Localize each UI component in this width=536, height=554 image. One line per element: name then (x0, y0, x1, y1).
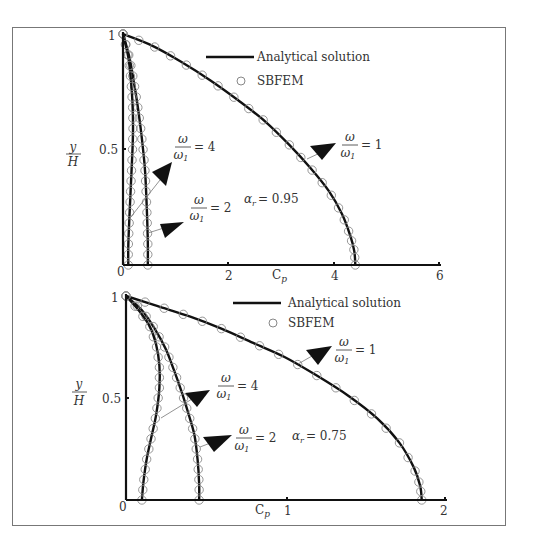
svg-text:ω1: ω1 (341, 146, 356, 161)
y-axis-label-den: H (67, 155, 79, 169)
svg-text:ω1: ω1 (174, 148, 189, 163)
svg-text:= 1: = 1 (361, 138, 383, 152)
svg-text:ω: ω (239, 423, 249, 437)
svg-text:ω1: ω1 (217, 387, 232, 402)
alpha-annotation: αr= 0.75 (292, 429, 347, 445)
y-tick-label: 1 (111, 291, 119, 305)
figure: 0 2 4 6 Cp 0.5 1 y H Analytical solution… (0, 0, 536, 554)
legend-analytical: Analytical solution (287, 296, 401, 310)
svg-text:ω: ω (339, 335, 349, 349)
svg-text:= 2: = 2 (210, 201, 232, 215)
legend-sbfem: SBFEM (288, 316, 334, 330)
label-omega-1: ω ω1 = 1 (298, 335, 377, 366)
svg-text:= 4: = 4 (237, 379, 259, 393)
svg-text:ω1: ω1 (235, 439, 250, 454)
svg-text:ω1: ω1 (190, 209, 205, 224)
y-axis-label-num: y (69, 140, 77, 154)
y-tick-label: 0.5 (99, 143, 118, 157)
legend-marker-circle (237, 77, 245, 85)
arrow-icon (152, 162, 172, 186)
label-omega-2: ω ω1 = 2 (200, 423, 277, 454)
x-tick-label: 4 (331, 269, 339, 283)
svg-text:= 1: = 1 (355, 343, 377, 357)
chart-bottom: 0 1 2 Cp 0.5 1 y H Analytical solution S… (72, 291, 448, 519)
arrow-icon (203, 435, 232, 452)
chart-top: 0 2 4 6 Cp 0.5 1 y H Analytical solution… (66, 29, 444, 284)
label-omega-2: ω ω1 = 2 (148, 193, 232, 238)
y-tick-label: 1 (108, 29, 116, 43)
x-axis-label: Cp (272, 268, 287, 284)
svg-text:= 2: = 2 (255, 431, 277, 445)
x-tick-label: 0 (119, 500, 127, 514)
svg-text:ω: ω (194, 193, 204, 207)
bottom-curves (122, 292, 426, 504)
arrow-icon (160, 222, 184, 238)
x-tick-label: 1 (284, 504, 292, 518)
x-axis-label: Cp (255, 503, 270, 519)
alpha-annotation: αr= 0.95 (244, 192, 299, 208)
x-tick-label: 2 (440, 504, 448, 518)
x-tick-label: 2 (225, 269, 233, 283)
legend-analytical: Analytical solution (256, 50, 370, 64)
svg-text:ω: ω (345, 130, 355, 144)
y-axis-label-num: y (75, 377, 83, 391)
svg-text:ω: ω (178, 132, 188, 146)
svg-text:= 4: = 4 (194, 140, 216, 154)
svg-text:ω: ω (221, 371, 231, 385)
x-tick-label: 6 (436, 269, 444, 283)
legend-sbfem: SBFEM (257, 74, 303, 88)
svg-text:ω1: ω1 (335, 351, 350, 366)
y-axis-label-den: H (73, 394, 85, 408)
arrow-icon (306, 346, 332, 365)
label-omega-1: ω ω1 = 1 (307, 130, 383, 161)
arrow-icon (310, 143, 336, 160)
x-tick-label: 0 (117, 265, 125, 279)
legend-marker-circle (269, 319, 277, 327)
y-tick-label: 0.5 (102, 392, 121, 406)
